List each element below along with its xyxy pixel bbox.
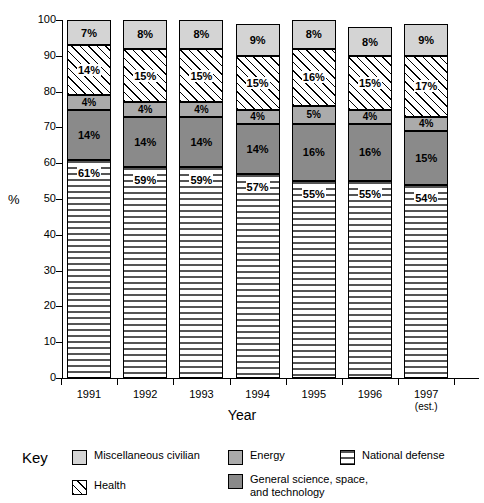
segment-value-label: 8% <box>137 28 153 40</box>
bar-1993: 59%14%4%15%8% <box>179 20 223 378</box>
bar-segment: 4% <box>179 102 223 116</box>
bar-segment: 54% <box>404 185 448 378</box>
x-axis-tick <box>173 379 174 385</box>
bar-1995: 55%16%5%16%8% <box>292 20 336 378</box>
legend-item: Health <box>72 479 126 495</box>
bar-segment: 14% <box>67 45 111 95</box>
chart-canvas: 0102030405060708090100 % 61%14%4%14%7%59… <box>0 0 484 503</box>
legend-label: National defense <box>362 449 445 462</box>
bar-segment: 14% <box>123 117 167 167</box>
legend-item: Miscellaneous civilian <box>72 449 200 465</box>
bar-segment: 5% <box>292 106 336 124</box>
segment-value-label: 4% <box>138 104 152 115</box>
y-axis-tick <box>56 92 62 93</box>
segment-value-label: 4% <box>194 104 208 115</box>
x-axis-tick-label: 1991 <box>59 388 119 401</box>
segment-value-label: 61% <box>77 167 101 179</box>
segment-value-label: 14% <box>77 64 101 76</box>
y-axis-tick-label: 20 <box>8 300 56 311</box>
segment-value-label: 4% <box>363 111 377 122</box>
bar-segment: 57% <box>236 174 280 378</box>
segment-value-label: 17% <box>414 80 438 92</box>
bar-segment: 16% <box>292 49 336 106</box>
bar-segment: 59% <box>123 167 167 378</box>
segment-value-label: 9% <box>250 34 266 46</box>
y-axis-tick-label: 0 <box>8 372 56 383</box>
bar-segment: 4% <box>67 95 111 109</box>
segment-value-label: 4% <box>419 118 433 129</box>
bar-segment: 15% <box>348 56 392 110</box>
segment-value-label: 14% <box>247 143 269 155</box>
segment-value-label: 8% <box>362 36 378 48</box>
legend-item: Energy <box>228 449 285 465</box>
bar-segment: 9% <box>404 24 448 56</box>
legend-label: Miscellaneous civilian <box>94 449 200 462</box>
bar-1996: 55%16%4%15%8% <box>348 20 392 378</box>
bar-1991: 61%14%4%14%7% <box>67 20 111 378</box>
bar-segment: 15% <box>123 49 167 103</box>
x-axis-tick-label: 1994 <box>228 388 288 401</box>
segment-value-label: 8% <box>193 28 209 40</box>
y-axis-tick-label: 70 <box>8 121 56 132</box>
legend-key-label: Key <box>22 449 48 466</box>
segment-value-label: 57% <box>246 181 270 193</box>
bar-segment: 9% <box>236 24 280 56</box>
legend-label: Health <box>94 479 126 492</box>
bar-1992: 59%14%4%15%8% <box>123 20 167 378</box>
segment-value-label: 16% <box>302 71 326 83</box>
segment-value-label: 4% <box>82 97 96 108</box>
bar-segment: 14% <box>236 124 280 174</box>
segment-value-label: 15% <box>358 77 382 89</box>
y-axis-tick <box>56 127 62 128</box>
legend-swatch <box>72 450 87 465</box>
x-axis-tick <box>454 379 455 385</box>
bar-segment: 15% <box>236 56 280 110</box>
x-axis-tick-label: 1993 <box>171 388 231 401</box>
segment-value-label: 5% <box>307 109 321 120</box>
segment-value-label: 4% <box>250 111 264 122</box>
segment-value-label: 16% <box>303 146 325 158</box>
x-axis-title: Year <box>0 407 484 423</box>
y-axis-tick-label: 100 <box>8 14 56 25</box>
segment-value-label: 55% <box>302 188 326 200</box>
bar-segment: 4% <box>123 102 167 116</box>
x-axis-tick <box>61 379 62 385</box>
y-axis-tick-group: 0102030405060708090100 <box>0 0 56 503</box>
bar-1997: 54%15%4%17%9% <box>404 20 448 378</box>
segment-value-label: 59% <box>189 174 213 186</box>
segment-value-label: 16% <box>359 146 381 158</box>
bar-segment: 7% <box>67 20 111 45</box>
segment-value-label: 15% <box>246 77 270 89</box>
segment-value-label: 15% <box>133 70 157 82</box>
segment-value-label: 14% <box>190 136 212 148</box>
x-axis-line <box>62 378 479 379</box>
x-axis-tick-label: 1992 <box>115 388 175 401</box>
y-axis-tick <box>56 163 62 164</box>
x-axis-tick <box>230 379 231 385</box>
x-axis-tick <box>117 379 118 385</box>
legend-label: Energy <box>250 449 285 462</box>
legend-item: General science, space, and technology <box>228 473 368 499</box>
y-axis-tick <box>56 235 62 236</box>
bar-segment: 8% <box>179 20 223 49</box>
bar-segment: 8% <box>292 20 336 49</box>
x-axis-tick <box>286 379 287 385</box>
y-axis-tick <box>56 20 62 21</box>
y-axis-tick <box>56 342 62 343</box>
bar-1994: 57%14%4%15%9% <box>236 20 280 378</box>
bar-segment: 4% <box>404 117 448 131</box>
bar-segment: 14% <box>179 117 223 167</box>
legend-swatch <box>228 450 243 465</box>
segment-value-label: 55% <box>358 188 382 200</box>
bar-segment: 8% <box>348 27 392 56</box>
segment-value-label: 15% <box>415 152 437 164</box>
x-axis-tick <box>398 379 399 385</box>
bar-segment: 8% <box>123 20 167 49</box>
y-axis-tick-label: 10 <box>8 336 56 347</box>
y-axis-tick <box>56 56 62 57</box>
y-axis-tick <box>56 306 62 307</box>
bar-segment: 4% <box>236 110 280 124</box>
y-axis-tick-label: 30 <box>8 265 56 276</box>
y-axis-tick-label: 60 <box>8 157 56 168</box>
legend-swatch <box>72 480 87 495</box>
